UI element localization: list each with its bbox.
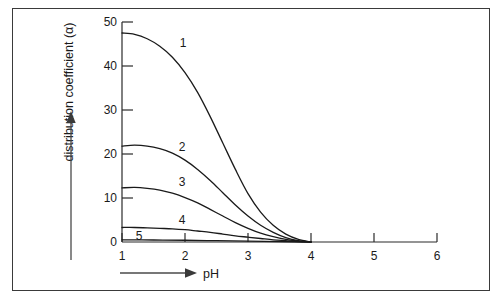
curve-label-1: 1 [180, 36, 187, 50]
x-tick-label-4: 4 [308, 249, 315, 263]
x-tick-label-2: 2 [182, 249, 189, 263]
x-tick-label-6: 6 [434, 249, 441, 263]
x-tick-label-5: 5 [371, 249, 378, 263]
curve-label-4: 4 [179, 213, 186, 227]
curve-label-5: 5 [136, 229, 143, 243]
x-axis-title: pH [203, 267, 219, 281]
y-tick-label-0: 0 [110, 235, 117, 249]
y-tick-label-40: 40 [104, 59, 118, 73]
y-tick-label-20: 20 [104, 147, 118, 161]
y-tick-label-50: 50 [104, 15, 118, 29]
x-tick-label-1: 1 [119, 249, 126, 263]
chart-figure: 50 40 30 20 10 0 1 2 3 4 5 6 1 2 3 4 5 d… [0, 0, 504, 301]
x-tick-label-3: 3 [245, 249, 252, 263]
curve-1 [122, 33, 311, 242]
chart-plot-area: 50 40 30 20 10 0 1 2 3 4 5 6 1 2 3 4 5 d… [0, 0, 504, 301]
y-tick-label-10: 10 [104, 191, 118, 205]
curve-label-2: 2 [179, 140, 186, 154]
curve-label-3: 3 [179, 175, 186, 189]
y-tick-label-30: 30 [104, 103, 118, 117]
x-axis-arrow-icon [120, 268, 197, 277]
y-axis-ticks [122, 22, 133, 198]
data-curves [122, 33, 311, 242]
y-axis-title: distribution coefficient (α) [62, 22, 76, 161]
